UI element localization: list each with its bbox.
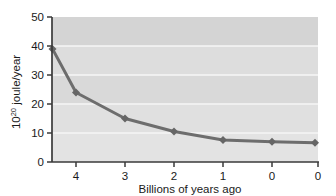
y-axis-title-exponent: 20 — [9, 108, 18, 116]
chart-figure: 0 10 20 30 40 50 4 3 2 1 0 0 Billions of… — [0, 0, 336, 196]
x-tick-label: 1 — [220, 170, 226, 182]
line-chart: 0 10 20 30 40 50 4 3 2 1 0 0 Billions of… — [0, 0, 336, 196]
y-tick-label: 0 — [38, 156, 44, 168]
x-axis-title: Billions of years ago — [139, 183, 242, 195]
y-tick-label: 40 — [31, 40, 44, 52]
y-axis-title-rest: joule/year — [10, 55, 22, 108]
y-tick-label: 30 — [31, 69, 44, 81]
x-tick-label: 0 — [315, 170, 321, 182]
plot-background — [52, 17, 318, 162]
y-axis-tick-labels: 0 10 20 30 40 50 — [31, 11, 44, 168]
y-tick-label: 50 — [31, 11, 44, 23]
y-axis-title: 1020 joule/year — [9, 55, 23, 129]
y-tick-label: 20 — [31, 98, 44, 110]
svg-text:1020 joule/year: 1020 joule/year — [9, 55, 23, 129]
x-tick-label: 0 — [269, 170, 275, 182]
x-axis-tick-labels: 4 3 2 1 0 0 — [73, 170, 321, 182]
x-tick-label: 2 — [171, 170, 177, 182]
x-tick-label: 3 — [122, 170, 128, 182]
y-tick-label: 10 — [31, 127, 44, 139]
x-tick-label: 4 — [73, 170, 80, 182]
y-axis-title-base: 10 — [10, 116, 22, 129]
